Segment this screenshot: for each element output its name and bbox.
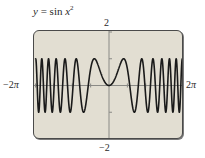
x-min-coef: −2	[3, 79, 14, 90]
chart-title: y = sin x2	[33, 4, 74, 17]
title-exponent: 2	[70, 4, 74, 12]
x-min-pi: π	[14, 79, 19, 90]
calculator-screen	[33, 30, 183, 139]
x-max-pi: π	[191, 79, 196, 90]
x-min-label: −2π	[3, 80, 19, 90]
x-max-label: 2π	[186, 80, 196, 90]
y-min-label: −2	[99, 143, 110, 153]
y-max-label: 2	[104, 18, 109, 28]
title-equals: =	[38, 5, 50, 17]
title-function: sin	[50, 5, 66, 17]
plot-area	[34, 31, 183, 139]
